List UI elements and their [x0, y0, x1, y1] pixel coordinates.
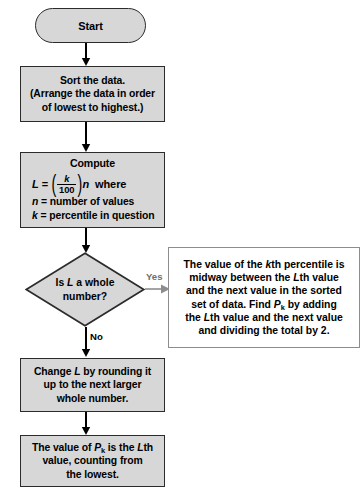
result-line-3: the lowest. — [66, 468, 119, 481]
node-start[interactable]: Start — [35, 8, 146, 43]
formula-paren-close: ) — [77, 175, 82, 193]
note-seg-4: th value — [300, 272, 339, 283]
note-line-3: and the next value in the sorted — [186, 284, 342, 297]
result-seg-2: is the — [105, 442, 137, 453]
node-decision-whole-number[interactable]: Is L a whole number? — [25, 252, 145, 327]
formula-lhs: L — [32, 178, 39, 191]
node-sort-data[interactable]: Sort the data. (Arrange the data in orde… — [20, 66, 165, 122]
result-seg-1: The value of — [32, 442, 94, 453]
compute-formula: L = ( k 100 ) n where — [32, 174, 164, 195]
note-line-1: The value of the kth percentile is — [183, 258, 344, 271]
connector-sort-to-compute — [83, 122, 89, 153]
node-yes-note[interactable]: The value of the kth percentile is midwa… — [168, 247, 360, 348]
decision-suffix: a whole — [73, 277, 114, 288]
result-p-symbol: P — [94, 442, 101, 453]
round-up-line-3: whole number. — [57, 392, 128, 405]
result-line-2: value, counting from — [42, 454, 142, 467]
note-line-2: midway between the Lth value — [189, 271, 339, 284]
compute-def-k: k = percentile in question — [32, 209, 164, 223]
result-line-1: The value of Pk is the Lth — [32, 441, 153, 454]
compute-body: L = ( k 100 ) n where n = number of valu… — [21, 174, 164, 223]
note-seg-6-var: Pk — [274, 299, 285, 310]
node-round-up[interactable]: Change L by rounding it up to the next l… — [20, 358, 165, 412]
note-seg-8: the — [185, 312, 203, 323]
decision-line-2: number? — [63, 291, 107, 302]
round-up-line-1: Change L by rounding it — [34, 365, 151, 378]
note-seg-1: The value of the — [183, 259, 265, 270]
branch-label-yes: Yes — [146, 271, 163, 282]
node-result[interactable]: The value of Pk is the Lth value, counti… — [20, 435, 165, 487]
decision-prefix: Is — [56, 277, 68, 288]
compute-title: Compute — [70, 157, 115, 170]
formula-fraction: k 100 — [57, 174, 76, 195]
branch-label-no: No — [90, 331, 103, 342]
def-n-variable: n — [32, 196, 38, 207]
sort-line-3: of lowest to highest.) — [42, 101, 144, 114]
def-n-text: = number of values — [41, 196, 134, 207]
formula-equals: = — [42, 178, 48, 191]
connector-compute-to-decision — [83, 228, 89, 254]
formula-suffix: where — [95, 178, 126, 191]
note-seg-6: set of data. Find — [191, 299, 274, 310]
decision-label: Is L a whole number? — [37, 276, 133, 302]
round-up-line-2: up to the next larger — [44, 378, 142, 391]
sort-line-1: Sort the data. — [60, 74, 125, 87]
note-seg-2: th percentile is — [271, 259, 344, 270]
connector-no-branch — [83, 327, 89, 358]
node-start-label: Start — [78, 20, 103, 32]
note-seg-7: by adding — [285, 299, 337, 310]
node-compute[interactable]: Compute L = ( k 100 ) n where n = number… — [20, 152, 165, 228]
formula-paren-open: ( — [51, 175, 56, 193]
connector-start-to-sort — [83, 43, 89, 67]
note-line-5: the Lth value and the next value — [185, 311, 343, 324]
def-k-variable: k — [32, 210, 38, 221]
note-seg-3: midway between the — [189, 272, 293, 283]
note-p-symbol: P — [274, 299, 281, 310]
formula-multiplier: n — [82, 178, 89, 191]
connector-roundup-to-result — [83, 412, 89, 436]
formula-numerator: k — [62, 174, 71, 184]
note-line-4: set of data. Find Pk by adding — [191, 298, 337, 311]
note-seg-9: th value and the next value — [210, 312, 343, 323]
formula-denominator: 100 — [57, 184, 76, 195]
round-up-seg-1: Change — [34, 366, 74, 377]
round-up-seg-2: by rounding it — [80, 366, 151, 377]
note-line-6: and dividing the total by 2. — [198, 324, 329, 337]
result-p-var: Pk — [94, 442, 105, 453]
sort-line-2: (Arrange the data in order — [30, 87, 155, 100]
result-seg-3: th — [143, 442, 153, 453]
def-k-text: = percentile in question — [40, 210, 154, 221]
